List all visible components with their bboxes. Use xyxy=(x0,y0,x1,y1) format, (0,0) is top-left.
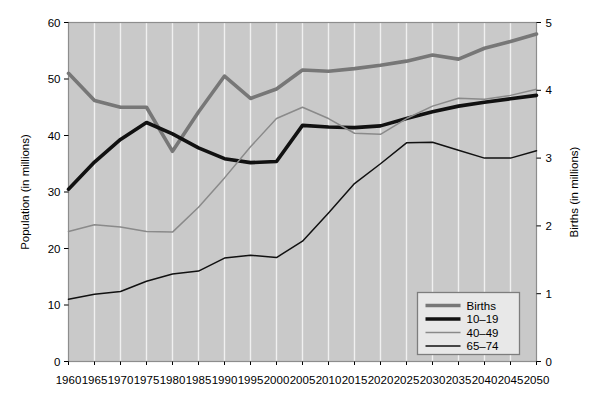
y-tick-label-right: 3 xyxy=(546,152,552,164)
y-tick-label-left: 20 xyxy=(48,243,61,255)
y-tick-label-left: 60 xyxy=(48,17,61,29)
x-tick-label: 2020 xyxy=(368,374,394,386)
x-tick-label: 2005 xyxy=(290,374,316,386)
y-tick-label-left: 10 xyxy=(48,299,61,311)
x-tick-label: 1960 xyxy=(56,374,82,386)
line-chart: 1960196519701975198019851990199520002005… xyxy=(0,0,597,402)
chart-legend: Births10–1940–4965–74 xyxy=(418,293,520,355)
x-tick-label: 2045 xyxy=(498,374,524,386)
x-tick-label: 2010 xyxy=(316,374,342,386)
y-tick-label-right: 0 xyxy=(546,356,552,368)
legend-label-2: 40–49 xyxy=(467,327,499,339)
x-tick-label: 1980 xyxy=(160,374,186,386)
legend-label-0: Births xyxy=(467,300,497,312)
x-tick-label: 2050 xyxy=(524,374,550,386)
x-tick-label: 2040 xyxy=(472,374,498,386)
legend-label-1: 10–19 xyxy=(467,313,499,325)
y-axis-title-right: Births (in millions) xyxy=(568,146,580,237)
y-tick-label-left: 0 xyxy=(54,356,60,368)
x-tick-label: 1990 xyxy=(212,374,238,386)
x-tick-label: 2000 xyxy=(264,374,290,386)
chart-container: 1960196519701975198019851990199520002005… xyxy=(0,0,597,402)
x-tick-label: 1965 xyxy=(82,374,108,386)
y-tick-label-right: 1 xyxy=(546,288,552,300)
y-tick-label-right: 2 xyxy=(546,220,552,232)
y-tick-label-left: 30 xyxy=(48,186,61,198)
y-axis-title-left: Population (in millions) xyxy=(19,134,31,250)
x-tick-label: 2025 xyxy=(394,374,420,386)
x-tick-label: 1995 xyxy=(238,374,264,386)
x-tick-label: 2035 xyxy=(446,374,472,386)
y-tick-label-left: 40 xyxy=(48,130,61,142)
legend-label-3: 65–74 xyxy=(467,340,500,352)
x-tick-label: 1970 xyxy=(108,374,134,386)
y-tick-label-left: 50 xyxy=(48,73,61,85)
y-tick-label-right: 5 xyxy=(546,17,552,29)
x-tick-label: 1975 xyxy=(134,374,160,386)
y-tick-label-right: 4 xyxy=(546,84,553,96)
x-tick-label: 2015 xyxy=(342,374,368,386)
x-tick-label: 2030 xyxy=(420,374,446,386)
x-tick-label: 1985 xyxy=(186,374,212,386)
